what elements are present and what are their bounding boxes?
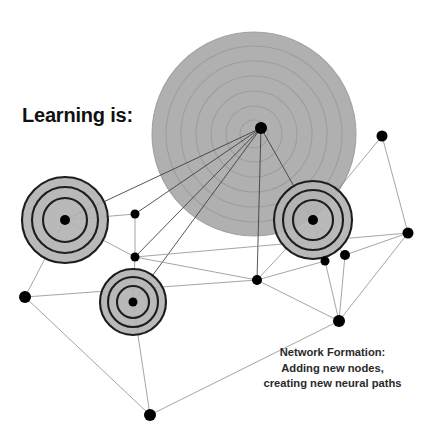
caption-block: Network Formation: Adding new nodes, cre…: [245, 345, 420, 392]
n-center: [252, 275, 262, 285]
diagram-stage: Learning is: Network Formation: Adding n…: [0, 0, 429, 444]
edge-n-far-right-n-bottom-r: [339, 233, 408, 321]
edge-n-far-right-n-r-sub-a: [345, 233, 408, 255]
n-right: [308, 215, 318, 225]
caption-line-1: Network Formation:: [245, 345, 420, 361]
edge-n-topright-n-far-right: [382, 136, 408, 233]
edge-n-center-n-bottom-r: [257, 280, 339, 321]
n-left: [60, 215, 70, 225]
edge-n-r-sub-b-n-bottom-r: [325, 261, 339, 321]
n-bottom-c: [144, 409, 156, 421]
n-big: [255, 122, 267, 134]
n-mid-up: [131, 210, 140, 219]
edge-n-r-sub-a-n-bottom-r: [339, 255, 345, 321]
n-far-right: [403, 228, 414, 239]
n-r-sub-a: [340, 250, 350, 260]
n-r-sub-b: [321, 257, 330, 266]
n-left-out: [19, 291, 31, 303]
edge-n-mid-low-n-far-right: [135, 233, 408, 257]
edge-n-center-n-r-sub-b: [257, 261, 325, 280]
caption-line-3: creating new neural paths: [245, 376, 420, 392]
n-bottom-r: [333, 315, 345, 327]
n-bottom: [129, 298, 138, 307]
page-title: Learning is:: [22, 104, 133, 127]
caption-line-2: Adding new nodes,: [245, 361, 420, 377]
n-mid-low: [131, 253, 140, 262]
n-topright: [377, 131, 388, 142]
